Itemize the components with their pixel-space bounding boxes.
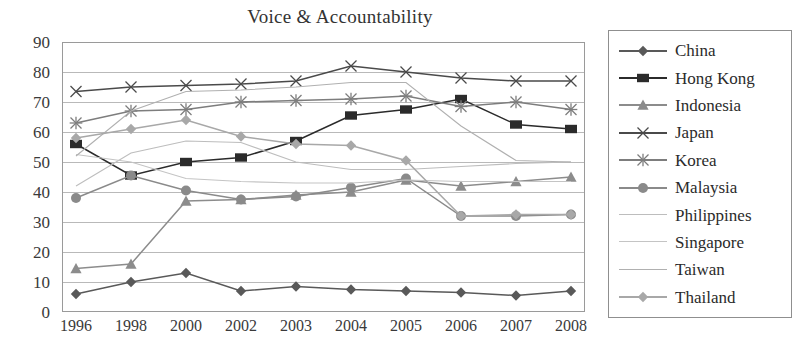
data-point-diamond	[346, 140, 356, 150]
y-axis-tick-label: 90	[33, 34, 50, 51]
legend-item-indonesia[interactable]: Indonesia	[617, 92, 787, 119]
x-axis-tick-label: 2000	[170, 318, 202, 334]
data-point-diamond	[346, 284, 356, 294]
series-china	[71, 268, 576, 301]
series-lines	[62, 42, 585, 312]
data-point-asterisk	[70, 117, 83, 130]
legend-item-philippines[interactable]: Philippines	[617, 201, 787, 228]
y-axis-tick-label: 70	[33, 94, 50, 111]
series-philippines	[76, 141, 571, 186]
legend-marker-circle-icon	[617, 179, 669, 197]
legend-label: Taiwan	[669, 261, 725, 278]
data-point-square	[345, 111, 357, 119]
legend-marker-square-icon	[617, 69, 669, 87]
legend-item-china[interactable]: China	[617, 37, 787, 64]
data-point-x	[638, 127, 649, 138]
legend-item-singapore[interactable]: Singapore	[617, 229, 787, 256]
x-axis-tick-label: 1996	[60, 318, 92, 334]
chart-container: Voice & Accountability 01020304050607080…	[0, 0, 799, 346]
data-point-diamond	[126, 277, 136, 287]
data-point-circle	[181, 186, 191, 196]
legend-marker-diamond-icon	[617, 288, 669, 306]
series-japan	[71, 61, 577, 98]
data-point-circle	[638, 183, 648, 193]
legend-item-thailand[interactable]: Thailand	[617, 284, 787, 311]
series-korea	[70, 90, 578, 130]
x-axis-tick-label: 2002	[225, 318, 257, 334]
legend-label: Korea	[669, 152, 717, 169]
series-taiwan	[76, 83, 571, 163]
data-point-asterisk	[637, 154, 650, 167]
data-point-square	[510, 120, 522, 128]
x-axis-tick-label: 2005	[390, 318, 422, 334]
y-axis-tick-label: 50	[33, 154, 50, 171]
legend-line	[619, 269, 667, 270]
y-axis-tick-label: 40	[33, 184, 50, 201]
data-point-diamond	[181, 115, 191, 125]
legend-line	[619, 241, 667, 242]
x-axis: 1996199820002002200320042005200620072008	[62, 314, 585, 342]
data-point-diamond	[638, 45, 648, 55]
data-point-square	[637, 74, 649, 82]
legend-item-hong-kong[interactable]: Hong Kong	[617, 64, 787, 91]
data-point-circle	[401, 174, 411, 184]
data-point-circle	[126, 171, 136, 181]
chart-title: Voice & Accountability	[150, 6, 530, 28]
data-point-circle	[291, 192, 301, 202]
data-point-diamond	[236, 286, 246, 296]
legend-label: Hong Kong	[669, 70, 755, 87]
legend-marker-none-icon	[617, 206, 669, 224]
x-axis-tick-label: 2003	[280, 318, 312, 334]
legend-item-malaysia[interactable]: Malaysia	[617, 174, 787, 201]
data-point-asterisk	[400, 90, 413, 103]
legend-label: Japan	[669, 124, 714, 141]
legend-marker-none-icon	[617, 261, 669, 279]
series-malaysia	[71, 171, 576, 222]
legend-label: Philippines	[669, 207, 752, 224]
data-point-asterisk	[455, 100, 468, 113]
legend-list: ChinaHong KongIndonesiaJapanKoreaMalaysi…	[617, 37, 787, 311]
y-axis-tick-label: 0	[42, 304, 51, 321]
data-point-square	[400, 105, 412, 113]
legend-label: Malaysia	[669, 179, 737, 196]
x-axis-tick-label: 1998	[115, 318, 147, 334]
legend-marker-diamond-icon	[617, 42, 669, 60]
legend-label: Indonesia	[669, 97, 741, 114]
data-point-diamond	[456, 287, 466, 297]
data-point-diamond	[566, 209, 576, 219]
y-axis-tick-label: 10	[33, 274, 50, 291]
legend-marker-none-icon	[617, 233, 669, 251]
legend-item-korea[interactable]: Korea	[617, 147, 787, 174]
legend-item-taiwan[interactable]: Taiwan	[617, 256, 787, 283]
legend-marker-x-icon	[617, 124, 669, 142]
data-point-diamond	[638, 292, 648, 302]
data-point-diamond	[511, 290, 521, 300]
data-point-diamond	[181, 268, 191, 278]
data-point-square	[235, 153, 247, 161]
plot-area	[62, 42, 585, 312]
data-point-circle	[346, 183, 356, 193]
data-point-square	[565, 125, 577, 133]
legend-item-japan[interactable]: Japan	[617, 119, 787, 146]
legend-label: Thailand	[669, 289, 735, 306]
x-axis-tick-label: 2008	[555, 318, 587, 334]
legend-label: Singapore	[669, 234, 744, 251]
data-point-diamond	[291, 281, 301, 291]
y-axis: 0102030405060708090	[0, 36, 56, 320]
data-point-diamond	[71, 289, 81, 299]
data-point-triangle	[637, 100, 648, 110]
data-point-diamond	[566, 286, 576, 296]
x-axis-tick-label: 2004	[335, 318, 367, 334]
data-point-asterisk	[565, 103, 578, 116]
x-axis-tick-label: 2006	[445, 318, 477, 334]
data-point-asterisk	[180, 103, 193, 116]
legend-marker-asterisk-icon	[617, 151, 669, 169]
data-point-circle	[71, 193, 81, 203]
data-point-asterisk	[510, 96, 523, 109]
data-point-square	[180, 158, 192, 166]
data-point-diamond	[126, 124, 136, 134]
legend-label: China	[669, 42, 716, 59]
legend-line	[619, 214, 667, 215]
x-axis-tick-label: 2007	[500, 318, 532, 334]
y-axis-tick-label: 30	[33, 214, 50, 231]
